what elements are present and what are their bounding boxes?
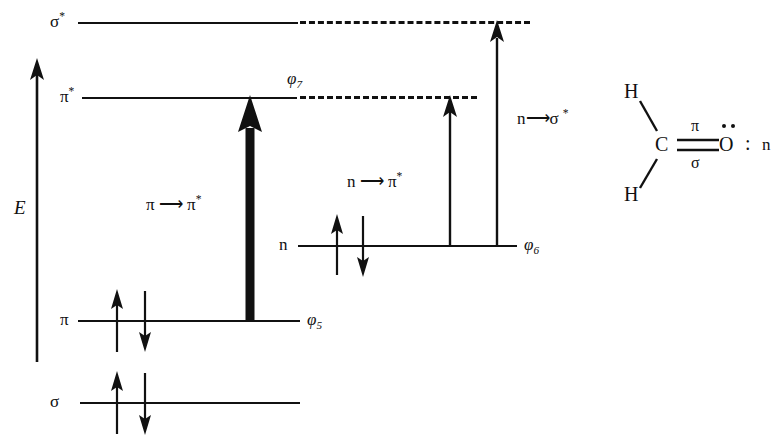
lone-pair-dot-left-icon	[722, 124, 726, 128]
orbital-label-phi5-symbol: φ	[307, 310, 316, 329]
orbital-label-phi7-index: 7	[296, 78, 302, 90]
transition-arrow-n-to-pi-star	[443, 95, 457, 245]
arrow-right-icon: ⟶	[526, 109, 550, 128]
energy-axis-label-text: E	[14, 197, 26, 218]
level-line-pi-star-dashed	[300, 96, 477, 99]
arrow-right-icon: ⟶	[360, 172, 384, 191]
transition-label-pi-to-pi-star-star: *	[196, 193, 202, 206]
level-line-n	[298, 245, 517, 247]
molecule-atom-c: C	[655, 134, 668, 154]
transition-label-pi-to-pi-star: π ⟶ π*	[146, 196, 201, 213]
transition-arrow-n-to-sigma-star	[490, 20, 504, 245]
level-line-pi	[78, 320, 300, 322]
molecule-atom-h-bottom-text: H	[624, 183, 638, 205]
molecule-atom-h-bottom: H	[624, 184, 638, 204]
level-label-sigma-star-star: *	[59, 10, 65, 23]
level-line-sigma-star	[78, 22, 298, 24]
molecule-atom-o-text: O	[719, 133, 733, 155]
transition-label-n-to-sigma-star-to: σ	[550, 109, 559, 128]
molecule-bond-label-pi: π	[691, 118, 699, 134]
orbital-label-phi5: φ5	[307, 311, 322, 328]
level-label-sigma-star: σ*	[50, 13, 65, 30]
mo-energy-diagram: σ* π* n π σ φ7 φ6 φ5 E π ⟶ π* n ⟶ π* n⟶σ…	[0, 0, 784, 448]
molecule-lone-pair-label-n-text: n	[762, 135, 771, 154]
level-label-sigma: σ	[50, 393, 59, 410]
molecule-lone-pair-colon: :	[745, 133, 751, 153]
transition-label-n-to-pi-star-to: π	[388, 172, 397, 191]
transition-label-n-to-sigma-star-from: n	[517, 109, 526, 128]
orbital-label-phi7-symbol: φ	[287, 69, 296, 88]
transition-label-pi-to-pi-star-from: π	[146, 195, 155, 214]
molecule-lone-pair-label-n: n	[762, 136, 771, 153]
level-line-pi-star	[82, 97, 297, 99]
level-label-pi: π	[60, 311, 69, 328]
transition-label-n-to-sigma-star-star: *	[563, 107, 569, 120]
molecule-atom-h-top-text: H	[624, 80, 638, 102]
molecule-atom-o: O	[719, 134, 733, 154]
molecule-atom-h-top: H	[624, 81, 638, 101]
energy-axis-label: E	[14, 198, 26, 217]
level-label-sigma-text: σ	[50, 392, 59, 411]
lone-pair-dot-right-icon	[731, 124, 735, 128]
arrow-right-icon: ⟶	[159, 195, 183, 214]
orbital-label-phi7: φ7	[287, 70, 302, 87]
orbital-label-phi6: φ6	[524, 236, 539, 253]
transition-label-n-to-sigma-star: n⟶σ*	[517, 110, 568, 127]
molecule-bonds	[640, 101, 719, 188]
level-label-pi-star: π*	[60, 88, 74, 105]
molecule-bond-label-sigma: σ	[691, 155, 700, 171]
molecule-bond-label-sigma-text: σ	[691, 154, 700, 171]
transition-label-n-to-pi-star: n ⟶ π*	[347, 173, 402, 190]
level-line-sigma	[80, 402, 300, 404]
level-label-n: n	[279, 236, 288, 253]
level-label-sigma-star-text: σ	[50, 12, 59, 31]
molecule-bond-label-pi-text: π	[691, 117, 699, 134]
transition-arrow-pi-to-pi-star	[238, 95, 262, 320]
orbital-label-phi6-symbol: φ	[524, 235, 533, 254]
molecule-lone-pair-colon-text: :	[745, 132, 751, 154]
molecule-atom-c-text: C	[655, 133, 668, 155]
diagram-vector-layer	[0, 0, 784, 448]
level-label-pi-star-star: *	[69, 85, 75, 98]
transition-label-n-to-pi-star-from: n	[347, 172, 356, 191]
level-label-pi-star-text: π	[60, 87, 69, 106]
level-label-pi-text: π	[60, 310, 69, 329]
orbital-label-phi6-index: 6	[533, 244, 539, 256]
level-line-sigma-star-dashed	[300, 21, 530, 24]
transition-label-pi-to-pi-star-to: π	[187, 195, 196, 214]
energy-axis-arrow	[30, 58, 44, 362]
level-label-n-text: n	[279, 235, 288, 254]
transition-label-n-to-pi-star-star: *	[397, 170, 403, 183]
orbital-label-phi5-index: 5	[316, 319, 322, 331]
